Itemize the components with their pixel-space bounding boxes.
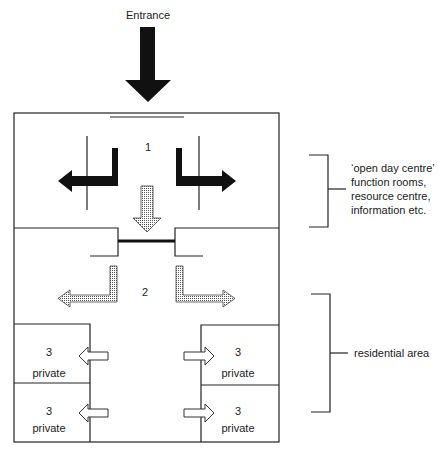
- zone2-left-exit-arrow-icon: [58, 266, 117, 307]
- entrance-arrow-icon: [125, 27, 171, 102]
- zone2-number: 2: [142, 286, 148, 298]
- upper-bracket-line-3: resource centre,: [351, 190, 430, 202]
- room-left-1-entry-arrow-icon: [79, 347, 108, 365]
- upper-bracket-line-4: information etc.: [351, 204, 426, 216]
- entrance-label: Entrance: [126, 9, 170, 21]
- room-label: private: [32, 422, 65, 434]
- lower-bracket: [311, 294, 330, 412]
- zone1-right-exit-arrow-icon: [176, 148, 236, 192]
- room-number: 3: [235, 346, 241, 358]
- room-number: 3: [235, 405, 241, 417]
- building-layout-diagram: Entrance 1 2 3 private 3 private 3 priva…: [0, 0, 448, 458]
- room-label: private: [221, 422, 254, 434]
- upper-bracket: [309, 155, 328, 227]
- room-right-1-entry-arrow-icon: [184, 347, 214, 365]
- room-label: private: [221, 367, 254, 379]
- building-outline: [14, 113, 279, 442]
- zone1-number: 1: [145, 141, 151, 153]
- room-number: 3: [46, 405, 52, 417]
- room-left-2-entry-arrow-icon: [79, 404, 108, 422]
- room-left-2: 3 private: [32, 405, 65, 434]
- lower-bracket-label: residential area: [354, 347, 430, 359]
- room-right-2: 3 private: [221, 405, 254, 434]
- room-right-2-entry-arrow-icon: [184, 404, 214, 422]
- zone2-right-exit-arrow-icon: [176, 266, 235, 307]
- room-number: 3: [46, 346, 52, 358]
- upper-bracket-line-1: ‘open day centre’: [351, 162, 435, 174]
- room-left-1: 3 private: [32, 346, 65, 379]
- zone-divider-left: [14, 228, 118, 256]
- room-label: private: [32, 367, 65, 379]
- zone-divider-right: [175, 228, 279, 256]
- zone1-to-zone2-arrow-icon: [133, 186, 161, 232]
- upper-bracket-line-2: function rooms,: [351, 176, 426, 188]
- room-right-1: 3 private: [221, 346, 254, 379]
- zone1-left-exit-arrow-icon: [58, 148, 118, 192]
